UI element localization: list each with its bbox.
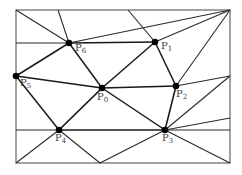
edge-line: [16, 130, 59, 163]
vertex-label-p0: P0: [97, 92, 108, 104]
triangulation-diagram: [0, 0, 242, 175]
edge-line: [165, 118, 230, 130]
vertex-label-p2: P2: [176, 89, 187, 101]
vertex-label-p6: P6: [75, 43, 86, 55]
frame-border: [16, 10, 230, 163]
edge-line: [58, 10, 69, 43]
vertex-label-p4: P4: [55, 133, 66, 145]
edge-line: [165, 130, 230, 163]
edge-line: [165, 86, 176, 130]
edge-line: [16, 10, 69, 43]
edge-line: [59, 88, 102, 130]
edge-line: [69, 10, 230, 43]
edge-line: [102, 86, 176, 88]
edge-line: [16, 43, 69, 76]
vertex-p5: [13, 73, 20, 80]
vertex-label-p5: P5: [20, 78, 31, 90]
vertex-label-p1: P1: [161, 41, 172, 53]
edge-line: [102, 88, 165, 130]
vertex-p1: [152, 39, 159, 46]
edge-line: [176, 76, 230, 86]
edges-group: [16, 10, 230, 163]
vertex-p6: [66, 40, 73, 47]
vertex-label-p3: P3: [162, 133, 173, 145]
edge-line: [102, 42, 155, 88]
edge-line: [100, 130, 165, 163]
